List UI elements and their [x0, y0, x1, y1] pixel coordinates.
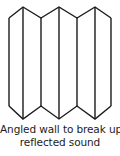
- caption-line-2: reflected sound: [0, 136, 120, 149]
- caption-line-1: Angled wall to break up: [0, 123, 120, 136]
- angled-wall-figure: Angled wall to break up reflected sound: [0, 0, 120, 156]
- zigzag-wall-svg: [0, 0, 120, 124]
- figure-caption: Angled wall to break up reflected sound: [0, 123, 120, 149]
- zigzag-wall-diagram: [0, 0, 120, 124]
